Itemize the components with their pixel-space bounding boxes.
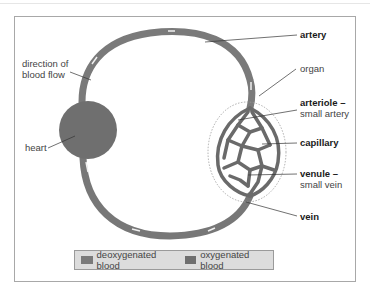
legend: deoxygenated blood oxygenated blood: [74, 250, 274, 270]
swatch-oxygenated: [185, 256, 197, 264]
legend-item-deoxygenated: deoxygenated blood: [81, 249, 173, 271]
label-organ: organ: [300, 63, 324, 74]
label-venule: venule –: [300, 168, 338, 179]
artery-vessel: [82, 32, 252, 108]
legend-label-oxygenated: oxygenated blood: [200, 249, 267, 271]
label-heart: heart: [25, 142, 47, 153]
swatch-deoxygenated: [81, 256, 93, 264]
capillary-bed: [218, 108, 279, 196]
heart-shape: [59, 101, 117, 159]
label-artery: artery: [300, 29, 326, 40]
label-direction-line1: direction of: [22, 58, 68, 69]
label-arteriole-sub: small artery: [300, 108, 349, 119]
label-arteriole: arteriole –: [300, 97, 345, 108]
label-vein: vein: [300, 211, 319, 222]
vein-vessel: [83, 158, 250, 236]
label-capillary: capillary: [300, 137, 339, 148]
legend-label-deoxygenated: deoxygenated blood: [97, 249, 173, 271]
label-direction-line2: blood flow: [22, 69, 65, 80]
legend-item-oxygenated: oxygenated blood: [185, 249, 267, 271]
label-venule-sub: small vein: [300, 179, 342, 190]
